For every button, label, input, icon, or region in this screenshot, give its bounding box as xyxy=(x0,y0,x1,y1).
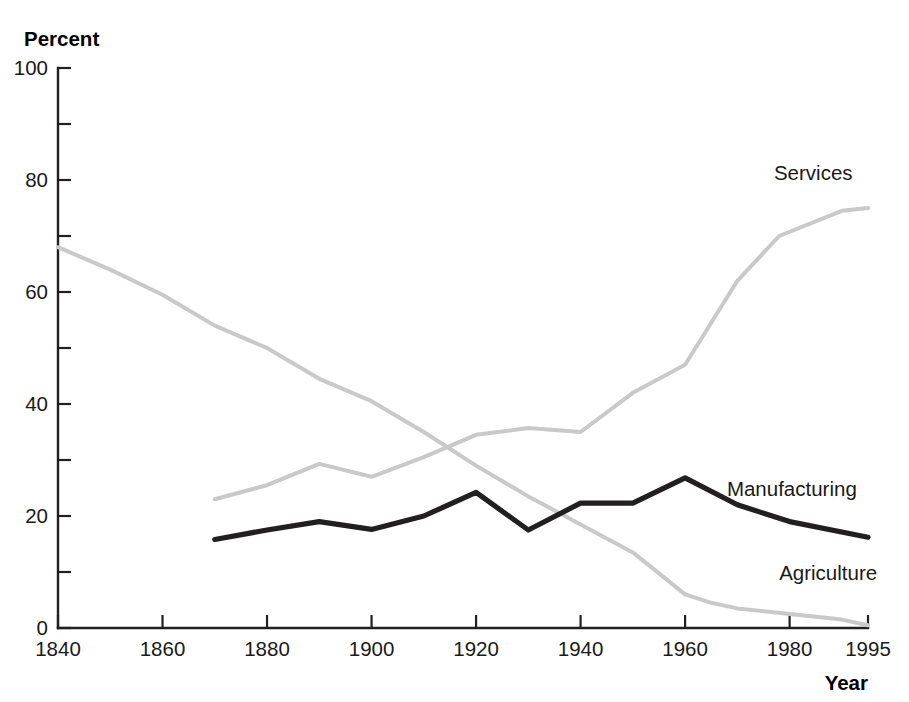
series-line-services xyxy=(215,208,868,499)
y-axis-title: Percent xyxy=(24,27,99,50)
y-tick-label: 100 xyxy=(14,56,48,79)
x-tick-label: 1920 xyxy=(453,637,499,660)
x-axis-ticks xyxy=(58,615,868,628)
y-axis-tick-labels: 020406080100 xyxy=(14,56,48,639)
y-axis-minor-ticks xyxy=(58,124,71,572)
y-tick-label: 20 xyxy=(25,504,48,527)
chart-container: Percent Year 020406080100 18401860188019… xyxy=(0,0,909,702)
x-tick-label: 1940 xyxy=(558,637,604,660)
series-labels-group: AgricultureManufacturingServices xyxy=(727,161,877,584)
x-tick-label: 1840 xyxy=(35,637,81,660)
y-tick-label: 40 xyxy=(25,392,48,415)
x-tick-label: 1980 xyxy=(767,637,813,660)
x-axis-title: Year xyxy=(825,671,868,694)
series-label-agriculture: Agriculture xyxy=(779,561,877,584)
x-axis-tick-labels: 184018601880190019201940196019801995 xyxy=(35,637,891,660)
y-tick-label: 60 xyxy=(25,280,48,303)
series-label-services: Services xyxy=(774,161,853,184)
x-tick-label: 1880 xyxy=(244,637,290,660)
line-chart-plot: Percent Year 020406080100 18401860188019… xyxy=(0,0,909,702)
series-line-agriculture xyxy=(58,247,868,625)
x-tick-label: 1960 xyxy=(662,637,708,660)
x-tick-label: 1995 xyxy=(845,637,891,660)
x-tick-label: 1860 xyxy=(140,637,186,660)
data-series-group xyxy=(58,208,868,625)
x-tick-label: 1900 xyxy=(349,637,395,660)
y-tick-label: 80 xyxy=(25,168,48,191)
series-label-manufacturing: Manufacturing xyxy=(727,477,857,500)
y-tick-label: 0 xyxy=(37,616,48,639)
